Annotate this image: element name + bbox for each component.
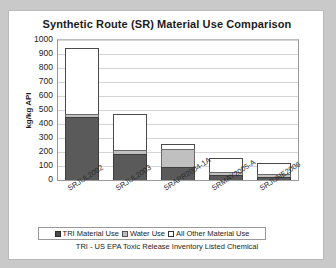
y-axis-tick-label: 500 bbox=[9, 104, 53, 114]
chart-legend: TRI Material UseWater UseAll Other Mater… bbox=[38, 227, 266, 240]
y-axis-tick-label: 700 bbox=[9, 76, 53, 86]
y-axis-tick-label: 0 bbox=[9, 174, 53, 184]
chart-title: Synthetic Route (SR) Material Use Compar… bbox=[9, 18, 325, 30]
y-axis-tick-label: 600 bbox=[9, 90, 53, 100]
y-axis-tick-label: 800 bbox=[9, 62, 53, 72]
bar-segment-other[interactable] bbox=[65, 48, 99, 114]
chart-footnote: TRI - US EPA Toxic Release Inventory Lis… bbox=[9, 242, 325, 251]
bar-segment-water[interactable] bbox=[161, 149, 195, 168]
legend-label: Water Use bbox=[130, 229, 165, 238]
legend-label: TRI Material Use bbox=[63, 229, 119, 238]
legend-item[interactable]: Water Use bbox=[122, 229, 165, 238]
legend-swatch-icon bbox=[168, 231, 174, 237]
y-axis-tick-label: 1000 bbox=[9, 34, 53, 44]
legend-swatch-icon bbox=[55, 231, 61, 237]
legend-item[interactable]: TRI Material Use bbox=[55, 229, 119, 238]
bar-series-group bbox=[58, 40, 298, 180]
bar-segment-other[interactable] bbox=[113, 114, 147, 150]
y-axis-tick-label: 900 bbox=[9, 48, 53, 58]
legend-swatch-icon bbox=[122, 231, 128, 237]
legend-item[interactable]: All Other Material Use bbox=[168, 229, 249, 238]
plot-area bbox=[57, 39, 299, 181]
y-axis-tick-label: 300 bbox=[9, 132, 53, 142]
y-axis-tick-label: 200 bbox=[9, 146, 53, 156]
legend-label: All Other Material Use bbox=[176, 229, 249, 238]
chart-frame: Synthetic Route (SR) Material Use Compar… bbox=[8, 10, 324, 260]
bar-stack[interactable] bbox=[65, 48, 99, 180]
y-axis-tick-label: 100 bbox=[9, 160, 53, 170]
y-axis-tick-label: 400 bbox=[9, 118, 53, 128]
